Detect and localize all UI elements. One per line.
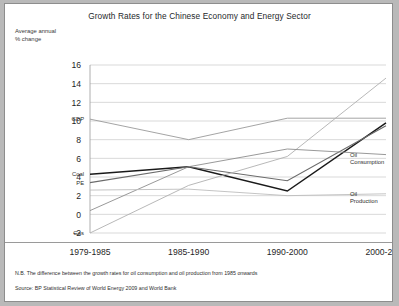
y-tick-label: 16: [71, 60, 81, 70]
series-label-oil-production: OilProduction: [350, 191, 378, 204]
series-label-pe: PE: [76, 180, 84, 186]
plot-area: 1614121086420-2 GDPCoalPEGasOilConsumpti…: [5, 4, 393, 302]
series-line-gdp: [90, 118, 386, 139]
y-tick-label: 14: [71, 79, 81, 89]
series-label-gdp: GDP: [71, 116, 84, 122]
y-tick-label: 12: [71, 98, 81, 108]
footnote-source: Source: BP Statistical Review of World E…: [15, 283, 385, 293]
series-line-gas: [90, 78, 386, 233]
footnotes: N.B. The difference between the growth r…: [15, 268, 385, 293]
y-tick-label: 2: [76, 191, 81, 201]
gridlines: [90, 65, 386, 233]
footer-divider: [5, 242, 393, 243]
series-label-coal: Coal: [72, 171, 84, 177]
y-tick-label: 6: [76, 154, 81, 164]
series-line-coal: [90, 123, 386, 191]
x-tick-label: 1985-1990: [168, 247, 209, 257]
x-tick-label: 1979-1985: [69, 247, 110, 257]
series-line-oil-production: [90, 189, 386, 196]
y-tick-label: 8: [76, 135, 81, 145]
y-tick-labels: 1614121086420-2: [71, 60, 81, 238]
series-lines: [90, 78, 386, 233]
chart-svg: 1614121086420-2 GDPCoalPEGasOilConsumpti…: [5, 4, 393, 302]
x-tick-label: 1990-2000: [267, 247, 308, 257]
chart-page: Growth Rates for the Chinese Economy and…: [4, 3, 393, 302]
footnote-note: N.B. The difference between the growth r…: [15, 268, 385, 278]
y-tick-label: 0: [76, 210, 81, 220]
x-tick-label: 2000-2008: [365, 247, 393, 257]
series-label-gas: Gas: [73, 230, 84, 236]
x-tick-labels: 1979-19851985-19901990-20002000-2008: [69, 247, 393, 257]
